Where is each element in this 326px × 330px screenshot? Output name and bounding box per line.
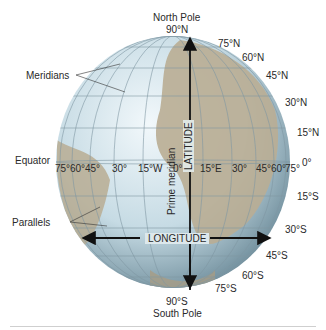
lon-60e: 60°	[271, 163, 286, 174]
meridians-label: Meridians	[26, 70, 69, 81]
lat-75n: 75°N	[218, 38, 240, 49]
lat-60s: 60°S	[242, 270, 264, 281]
lon-30e: 30°	[232, 163, 247, 174]
lon-45w: 45°	[85, 163, 100, 174]
lon-60w: 60°	[70, 163, 85, 174]
north-pole-label: North Pole	[153, 12, 200, 23]
lon-15w: 15°W	[138, 163, 163, 174]
lon-75w: 75°	[55, 163, 70, 174]
lon-45e: 45°	[256, 163, 271, 174]
lat-15s: 15°S	[297, 191, 319, 202]
south-pole-label: South Pole	[153, 308, 202, 319]
lat-60n: 60°N	[242, 52, 264, 63]
south-pole-degree: 90°S	[166, 296, 188, 307]
lat-45n: 45°N	[266, 70, 288, 81]
north-pole-degree: 90°N	[166, 24, 188, 35]
lat-30s: 30°S	[285, 224, 307, 235]
lat-75s: 75°S	[215, 283, 237, 294]
equator-label: Equator	[15, 155, 50, 166]
parallels-label: Parallels	[12, 217, 50, 228]
lat-45s: 45°S	[266, 250, 288, 261]
divider	[10, 326, 316, 327]
lon-30w: 30°	[112, 163, 127, 174]
latitude-label: LATITUDE	[183, 120, 194, 172]
longitude-label: LONGITUDE	[145, 233, 209, 244]
lat-15n: 15°N	[297, 127, 319, 138]
lat-30n: 30°N	[285, 97, 307, 108]
lon-75e: 75°	[285, 163, 300, 174]
lon-0: 0°	[173, 163, 183, 174]
lon-15e: 15°E	[200, 163, 222, 174]
prime-meridian-label: Prime meridian	[166, 148, 177, 215]
lat-equator: 0°	[302, 157, 312, 168]
